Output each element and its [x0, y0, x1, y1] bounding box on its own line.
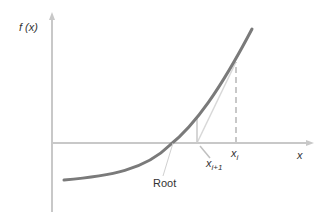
x-axis-arrow-icon: [306, 140, 314, 146]
y-axis-label: f (x): [19, 21, 38, 33]
xi1-subscript: i+1: [212, 163, 223, 172]
function-curve: [64, 29, 252, 180]
xi-label: xi: [231, 147, 238, 162]
root-label: Root: [153, 177, 176, 189]
x-axis-label: x: [297, 149, 303, 161]
xi-subscript: i: [237, 153, 239, 162]
tangent-line: [197, 62, 236, 143]
xi1-label: xi+1: [206, 157, 222, 172]
y-axis-arrow-icon: [49, 12, 55, 20]
